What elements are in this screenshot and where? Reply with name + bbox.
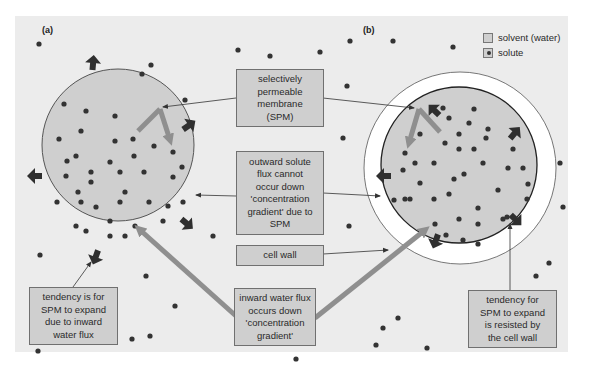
callout-inward-water-flux: inward water flux occurs down 'concentra… (234, 288, 316, 346)
callout-outward-solute-flux: outward solute flux cannot occur down 'c… (236, 151, 324, 235)
legend-label-solvent: solvent (water) (498, 32, 560, 43)
callout-tendency-right: tendency for SPM to expand is resisted b… (468, 290, 557, 348)
legend: solvent (water) solute (483, 30, 560, 60)
legend-item-solvent: solvent (water) (483, 30, 560, 45)
legend-label-solute: solute (498, 47, 523, 58)
callout-spm: selectively permeable membrane (SPM) (236, 69, 324, 127)
panel-label-a: (a) (42, 25, 53, 35)
callout-outward-solute-flux-text: outward solute flux cannot occur down 'c… (247, 156, 312, 231)
solvent-swatch-icon (483, 33, 493, 43)
callout-tendency-left: tendency is for SPM to expand due to inw… (29, 287, 118, 345)
callout-tendency-right-text: tendency for SPM to expand is resisted b… (480, 294, 545, 344)
solute-swatch-icon (483, 48, 493, 58)
panel-label-b: (b) (363, 25, 375, 35)
callout-cell-wall: cell wall (236, 245, 324, 266)
cell-a-membrane (42, 69, 194, 221)
callout-cell-wall-text: cell wall (263, 249, 296, 262)
callout-inward-water-flux-text: inward water flux occurs down 'concentra… (239, 292, 310, 342)
callout-tendency-left-text: tendency is for SPM to expand due to inw… (41, 291, 106, 341)
legend-item-solute: solute (483, 45, 560, 60)
callout-spm-text: selectively permeable membrane (SPM) (257, 73, 302, 123)
